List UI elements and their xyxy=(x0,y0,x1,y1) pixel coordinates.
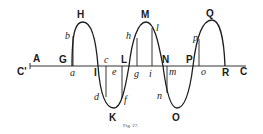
label-P: P xyxy=(186,54,193,65)
label-c-prime: C' xyxy=(17,66,27,77)
label-c-small: c xyxy=(104,54,109,65)
label-I: I xyxy=(94,67,97,78)
label-Q: Q xyxy=(206,8,214,19)
label-m: m xyxy=(169,66,176,77)
label-b: b xyxy=(65,30,70,41)
label-O: O xyxy=(172,112,180,123)
label-H: H xyxy=(77,9,84,20)
label-e: e xyxy=(112,66,117,77)
label-n: n xyxy=(157,90,162,101)
label-f: f xyxy=(124,94,128,105)
label-d: d xyxy=(94,91,100,102)
label-a: a xyxy=(70,67,75,78)
label-l: l xyxy=(156,22,159,33)
label-M: M xyxy=(141,9,149,20)
label-o: o xyxy=(201,66,206,77)
label-p: p xyxy=(192,32,198,43)
wave-diagram: C' C A G H I L K M N O P Q R a b c d e f… xyxy=(0,0,263,134)
label-c: C xyxy=(240,66,247,77)
label-K: K xyxy=(109,112,117,123)
label-N: N xyxy=(162,54,169,65)
label-L: L xyxy=(121,54,127,65)
label-i: i xyxy=(149,68,152,79)
label-g: g xyxy=(134,68,139,79)
label-h: h xyxy=(126,30,131,41)
label-G: G xyxy=(59,54,67,65)
figure-caption: Fig. 27. xyxy=(123,123,138,128)
label-R: R xyxy=(222,67,230,78)
label-A: A xyxy=(33,53,40,64)
